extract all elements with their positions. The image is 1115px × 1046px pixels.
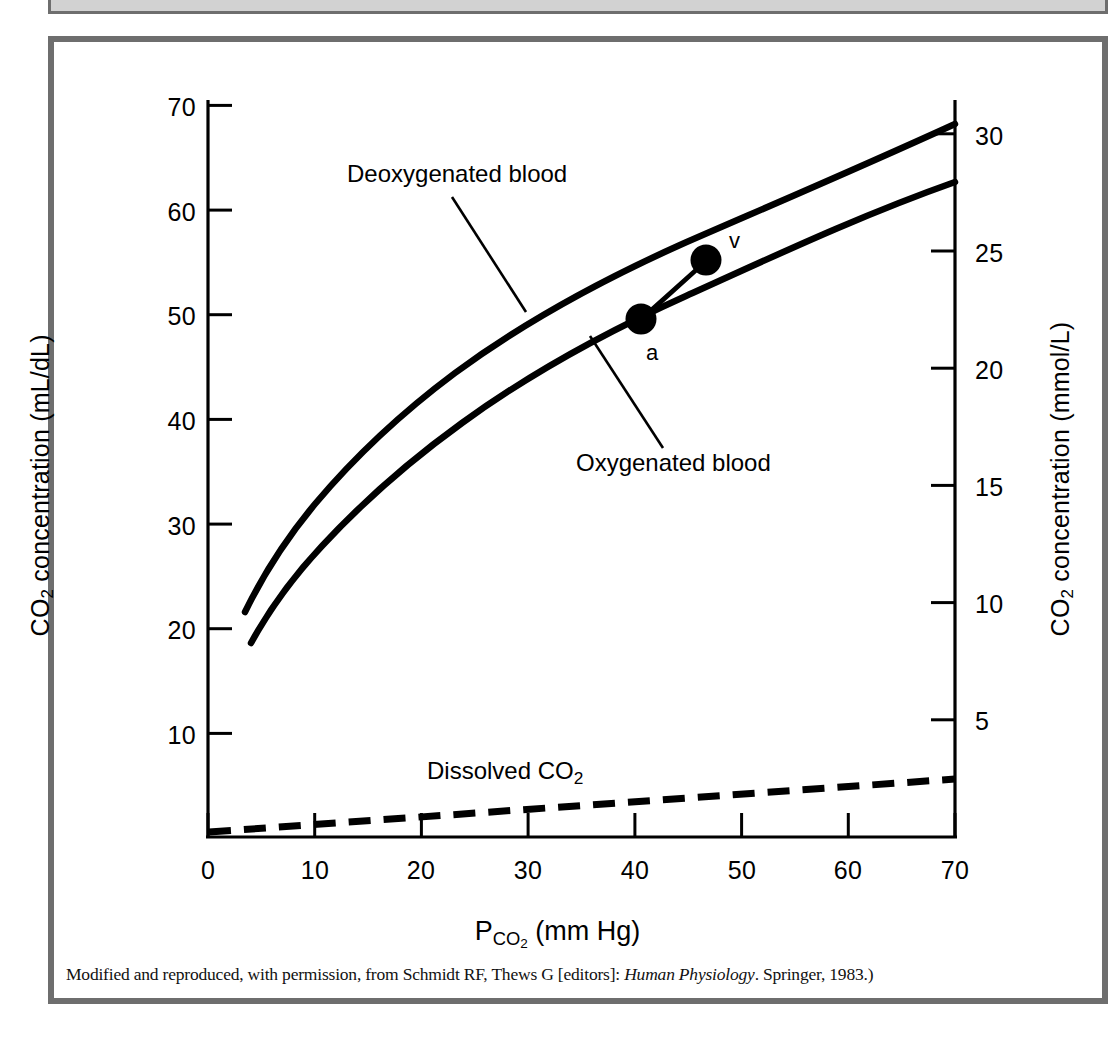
figure-header-strip [48,0,1108,14]
y-axis-right-title: CO2 concentration (mmol/L) [1046,336,1079,636]
y-axis-right-tick-label: 5 [975,707,989,736]
x-axis-tick-label: 0 [188,856,228,885]
y-axis-right-tick-label: 25 [975,239,1003,268]
y-axis-left-tick-label: 50 [150,302,196,331]
y-axis-left-tick-label: 10 [150,721,196,750]
x-axis-title: PCO2 (mm Hg) [0,916,1115,951]
x-axis-tick-label: 20 [401,856,441,885]
datapoint-label-a: a [646,340,658,366]
x-axis-tick-label: 60 [828,856,868,885]
series-label-dissolved: Dissolved CO2 [427,757,583,789]
y-axis-right-tick-label: 15 [975,473,1003,502]
y-axis-left-tick-label: 30 [150,512,196,541]
y-axis-left-tick-label: 60 [150,198,196,227]
x-axis-tick-label: 50 [722,856,762,885]
x-axis-tick-label: 30 [508,856,548,885]
series-label-deoxygenated: Deoxygenated blood [347,160,567,188]
x-axis-tick-label: 10 [295,856,335,885]
y-axis-right-tick-label: 20 [975,356,1003,385]
datapoint-label-v: v [729,228,740,254]
y-axis-left-tick-label: 40 [150,407,196,436]
y-axis-right-tick-label: 30 [975,122,1003,151]
x-axis-tick-label: 40 [615,856,655,885]
figure-source-caption: Modified and reproduced, with permission… [66,964,1066,985]
y-axis-left-title: CO2 concentration (mL/dL) [26,336,59,636]
y-axis-left-tick-label: 70 [150,93,196,122]
y-axis-left-tick-label: 20 [150,616,196,645]
y-axis-right-tick-label: 10 [975,590,1003,619]
series-label-oxygenated: Oxygenated blood [576,449,771,477]
x-axis-tick-label: 70 [935,856,975,885]
